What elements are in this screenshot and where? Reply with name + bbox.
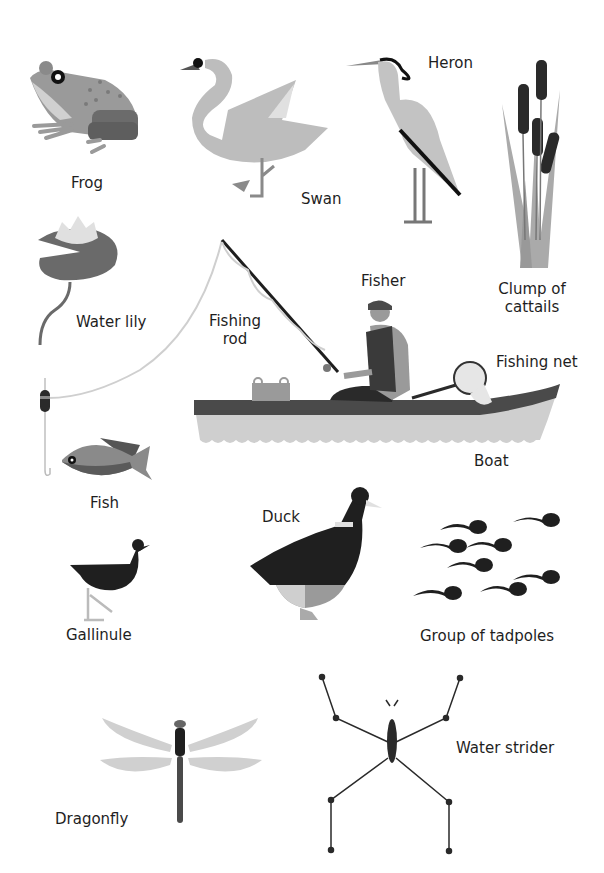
label-boat: Boat [474,452,509,470]
cattails-illustration [502,60,560,268]
fishing-net-illustration [412,362,492,405]
label-water-strider: Water strider [456,739,554,757]
label-fisher: Fisher [361,272,405,290]
gallinule-illustration [70,539,150,620]
label-fishing-rod-line1: Fishing [202,312,268,330]
label-fishing-net: Fishing net [496,353,578,371]
label-gallinule: Gallinule [66,626,132,644]
label-water-lily: Water lily [76,313,147,331]
duck-illustration [250,487,382,620]
label-heron: Heron [428,54,473,72]
label-cattails: Clump of cattails [492,280,572,316]
label-dragonfly: Dragonfly [55,810,128,828]
frog-illustration [30,61,138,152]
label-fish: Fish [90,494,119,512]
label-tadpoles: Group of tadpoles [420,627,554,645]
fisher-illustration [330,300,410,402]
fish-illustration [62,438,152,480]
swan-illustration [180,58,328,196]
water-strider-illustration [320,675,463,854]
label-cattails-line2: cattails [492,298,572,316]
label-frog: Frog [71,174,103,192]
label-fishing-rod: Fishing rod [202,312,268,348]
heron-illustration [346,59,460,222]
tadpoles-illustration [413,513,560,600]
label-duck: Duck [262,508,300,526]
bobber-and-hook [40,378,50,475]
label-cattails-line1: Clump of [492,280,572,298]
label-swan: Swan [301,190,342,208]
dragonfly-illustration [100,718,262,823]
label-fishing-rod-line2: rod [202,330,268,348]
